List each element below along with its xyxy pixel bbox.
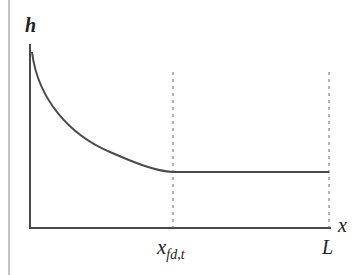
xfd-subscript: fd,t [166, 247, 184, 262]
diagram-canvas [0, 0, 364, 275]
h-curve [32, 52, 329, 172]
xfd-base: x [157, 235, 166, 259]
x-axis-label: x [338, 214, 347, 237]
xfd-mark-label: xfd,t [157, 235, 185, 263]
L-mark-label: L [322, 236, 333, 259]
y-axis-label: h [25, 14, 36, 37]
